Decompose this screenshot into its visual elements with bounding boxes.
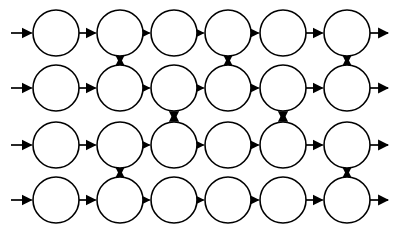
graph-node[interactable] — [97, 10, 143, 56]
graph-node[interactable] — [260, 122, 306, 168]
graph-node[interactable] — [324, 10, 370, 56]
graph-node[interactable] — [205, 10, 251, 56]
graph-node[interactable] — [205, 177, 251, 223]
graph-node[interactable] — [260, 10, 306, 56]
diagram-svg — [0, 0, 397, 237]
diagram-canvas — [0, 0, 397, 237]
graph-node[interactable] — [33, 65, 79, 111]
graph-node[interactable] — [33, 10, 79, 56]
graph-node[interactable] — [151, 122, 197, 168]
io-arrow-layer — [11, 33, 388, 200]
node-layer — [33, 10, 370, 223]
graph-node[interactable] — [97, 177, 143, 223]
graph-node[interactable] — [205, 65, 251, 111]
graph-node[interactable] — [205, 122, 251, 168]
graph-node[interactable] — [97, 65, 143, 111]
graph-node[interactable] — [33, 122, 79, 168]
horizontal-edge-layer — [79, 33, 323, 200]
graph-node[interactable] — [97, 122, 143, 168]
graph-node[interactable] — [324, 122, 370, 168]
graph-node[interactable] — [151, 10, 197, 56]
graph-node[interactable] — [151, 177, 197, 223]
graph-node[interactable] — [324, 65, 370, 111]
graph-node[interactable] — [260, 177, 306, 223]
graph-node[interactable] — [151, 65, 197, 111]
graph-node[interactable] — [324, 177, 370, 223]
graph-node[interactable] — [260, 65, 306, 111]
graph-node[interactable] — [33, 177, 79, 223]
